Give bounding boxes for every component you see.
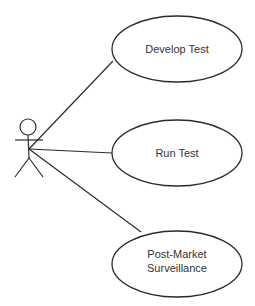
use-case-run-test[interactable]: Run Test xyxy=(112,120,242,186)
association-run-test xyxy=(29,149,112,153)
use-case-label: Run Test xyxy=(155,147,198,159)
actor-left-leg xyxy=(15,158,29,177)
use-case-label-line-1: Post-Market xyxy=(147,248,206,260)
association-develop-test xyxy=(29,61,113,149)
use-case-label: Develop Test xyxy=(145,43,208,55)
use-case-label-line-2: Surveillance xyxy=(147,262,207,274)
actor-right-leg xyxy=(29,158,43,177)
use-case-develop-test[interactable]: Develop Test xyxy=(112,16,242,82)
use-case-diagram: Develop Test Run Test Post-Market Survei… xyxy=(0,0,255,306)
actor-body xyxy=(28,135,29,158)
actor-head xyxy=(20,119,36,135)
use-case-post-market-surveillance[interactable]: Post-Market Surveillance xyxy=(112,231,242,297)
actor-stick-figure-icon[interactable] xyxy=(15,119,43,177)
